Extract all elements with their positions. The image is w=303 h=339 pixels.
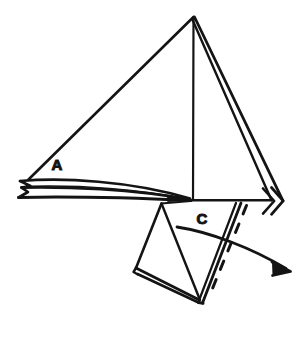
label-a: A: [52, 156, 63, 173]
center-crease-line: [193, 17, 194, 200]
lower-flap-bottom-vertex: [199, 303, 204, 304]
origami-illustration: A C: [0, 0, 303, 339]
label-c: C: [197, 210, 208, 227]
origami-diagram: A C: [0, 0, 303, 339]
right-layer-apex-connector: [193, 18, 195, 19]
